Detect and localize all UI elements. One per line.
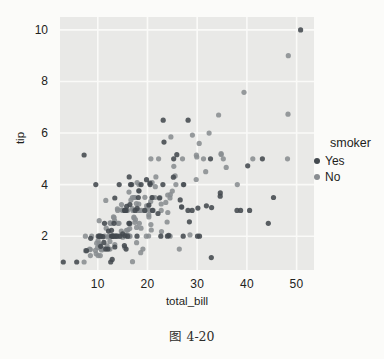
scatter-point-yes bbox=[247, 208, 252, 213]
scatter-point-no bbox=[134, 240, 139, 245]
scatter-point-yes bbox=[144, 177, 149, 182]
scatter-point-no bbox=[197, 141, 202, 146]
scatter-point-no bbox=[153, 174, 158, 179]
scatter-point-no bbox=[88, 253, 93, 258]
scatter-point-yes bbox=[112, 244, 117, 249]
y-tick-label: 4 bbox=[14, 178, 48, 192]
legend-entry-yes: Yes bbox=[310, 153, 384, 169]
scatter-point-no bbox=[138, 226, 143, 231]
y-tick-label: 10 bbox=[14, 23, 48, 37]
scatter-point-yes bbox=[178, 197, 183, 202]
scatter-point-no bbox=[119, 202, 124, 207]
legend-dot-icon bbox=[314, 158, 320, 164]
scatter-point-no bbox=[126, 190, 131, 195]
scatter-point-no bbox=[201, 156, 206, 161]
scatter-point-no bbox=[194, 153, 199, 158]
scatter-point-yes bbox=[111, 221, 116, 226]
scatter-point-yes bbox=[298, 27, 303, 32]
scatter-point-no bbox=[82, 259, 87, 264]
scatter-point-yes bbox=[123, 208, 128, 213]
scatter-point-yes bbox=[174, 152, 179, 157]
scatter-point-no bbox=[219, 152, 224, 157]
scatter-point-yes bbox=[122, 233, 127, 238]
scatter-point-yes bbox=[136, 188, 141, 193]
x-tick-label: 10 bbox=[81, 277, 115, 291]
scatter-point-yes bbox=[93, 182, 98, 187]
scatter-point-yes bbox=[126, 221, 131, 226]
scatter-point-yes bbox=[208, 156, 213, 161]
scatter-point-yes bbox=[117, 234, 122, 239]
scatter-point-no bbox=[159, 229, 164, 234]
x-tick-label: 20 bbox=[130, 277, 164, 291]
scatter-point-yes bbox=[103, 247, 108, 252]
scatter-point-yes bbox=[181, 234, 186, 239]
scatter-point-no bbox=[224, 165, 229, 170]
scatter-point-no bbox=[144, 234, 149, 239]
y-tick-label: 8 bbox=[14, 74, 48, 88]
scatter-point-no bbox=[285, 112, 290, 117]
scatter-point-no bbox=[163, 200, 168, 205]
scatter-point-yes bbox=[82, 152, 87, 157]
y-tick-label: 2 bbox=[14, 229, 48, 243]
scatter-point-no bbox=[235, 182, 240, 187]
scatter-point-no bbox=[159, 201, 164, 206]
scatter-point-yes bbox=[106, 229, 111, 234]
scatter-point-no bbox=[131, 215, 136, 220]
legend-entry-label: Yes bbox=[325, 154, 345, 168]
scatter-point-no bbox=[137, 221, 142, 226]
scatter-point-yes bbox=[102, 221, 107, 226]
scatter-point-yes bbox=[146, 202, 151, 207]
scatter-point-yes bbox=[96, 234, 101, 239]
scatter-point-no bbox=[207, 131, 212, 136]
scatter-point-no bbox=[190, 133, 195, 138]
scatter-point-no bbox=[112, 215, 117, 220]
legend: smoker YesNo bbox=[310, 136, 384, 185]
scatter-point-no bbox=[167, 195, 172, 200]
scatter-point-yes bbox=[128, 182, 133, 187]
scatter-point-yes bbox=[142, 208, 147, 213]
scatter-point-no bbox=[165, 219, 170, 224]
scatter-point-no bbox=[286, 53, 291, 58]
scatter-point-no bbox=[180, 156, 185, 161]
scatter-point-yes bbox=[186, 118, 191, 123]
scatter-point-yes bbox=[108, 259, 113, 264]
scatter-point-yes bbox=[266, 221, 271, 226]
scatter-point-no bbox=[177, 247, 182, 252]
scatter-point-yes bbox=[139, 182, 144, 187]
scatter-point-yes bbox=[148, 182, 153, 187]
scatter-point-no bbox=[171, 164, 176, 169]
scatter-point-yes bbox=[112, 195, 117, 200]
scatter-point-no bbox=[142, 195, 147, 200]
scatter-point-no bbox=[148, 156, 153, 161]
scatter-point-no bbox=[97, 218, 102, 223]
scatter-point-yes bbox=[179, 204, 184, 209]
scatter-point-yes bbox=[150, 208, 155, 213]
scatter-point-yes bbox=[127, 174, 132, 179]
scatter-point-no bbox=[130, 259, 135, 264]
scatter-point-yes bbox=[161, 140, 166, 145]
scatter-point-no bbox=[127, 226, 132, 231]
scatter-point-no bbox=[156, 156, 161, 161]
scatter-point-yes bbox=[61, 259, 66, 264]
scatter-point-yes bbox=[165, 234, 170, 239]
scatter-plot bbox=[60, 17, 314, 270]
plot-panel bbox=[60, 17, 314, 270]
scatter-point-no bbox=[187, 232, 192, 237]
figure-caption: 图 4-20 bbox=[0, 326, 384, 345]
scatter-point-no bbox=[165, 210, 170, 215]
scatter-point-yes bbox=[160, 182, 165, 187]
scatter-point-yes bbox=[134, 234, 139, 239]
scatter-point-no bbox=[194, 177, 199, 182]
scatter-point-no bbox=[83, 234, 88, 239]
scatter-point-no bbox=[138, 250, 143, 255]
legend-entries: YesNo bbox=[310, 153, 384, 185]
scatter-point-yes bbox=[171, 175, 176, 180]
legend-entry-label: No bbox=[325, 170, 340, 184]
x-tick-label: 50 bbox=[280, 277, 314, 291]
scatter-point-yes bbox=[110, 234, 115, 239]
scatter-point-no bbox=[241, 90, 246, 95]
legend-title: smoker bbox=[310, 136, 384, 150]
scatter-point-yes bbox=[161, 118, 166, 123]
scatter-point-no bbox=[96, 253, 101, 258]
scatter-point-yes bbox=[195, 206, 200, 211]
